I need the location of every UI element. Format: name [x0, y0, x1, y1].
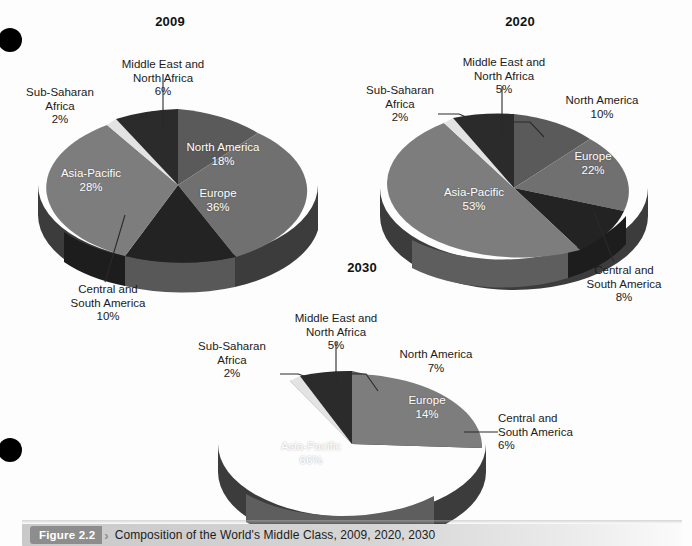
- slice-label-2009-asia-pacific: Asia-Pacific 28%: [46, 167, 136, 194]
- figure-number-badge: Figure 2.2: [30, 526, 102, 544]
- callout-2030-north-america: North America 7%: [376, 348, 496, 375]
- pie-chart-2030: 2030: [176, 256, 596, 520]
- pie-graphic-2030: [176, 256, 596, 520]
- figure-caption-text: Composition of the World's Middle Class,…: [115, 528, 436, 542]
- caption-chevron-icon: ›: [104, 528, 108, 543]
- callout-2009-central-south-america: Central and South America 10%: [38, 283, 178, 324]
- callout-2020-sub-saharan-africa: Sub-Saharan Africa 2%: [346, 84, 454, 125]
- slice-label-2020-europe: Europe 22%: [548, 150, 638, 177]
- slice-label-2020-asia-pacific: Asia-Pacific 53%: [424, 186, 524, 213]
- slice-label-2009-north-america: North America 18%: [168, 141, 278, 168]
- chart-title-2030: 2030: [322, 260, 402, 275]
- callout-2030-sub-saharan-africa: Sub-Saharan Africa 2%: [178, 340, 286, 381]
- figure-page: 2009: [0, 0, 692, 546]
- callout-2030-central-south-america: Central and South America 6%: [498, 412, 618, 453]
- callout-2009-sub-saharan-africa: Sub-Saharan Africa 2%: [6, 86, 114, 127]
- slice-label-2030-asia-pacific: Asia-Pacific 66%: [256, 440, 366, 467]
- callout-2020-north-america: North America 10%: [542, 94, 662, 121]
- figure-caption-bar: Figure 2.2 › Composition of the World's …: [22, 524, 682, 546]
- chart-title-2020: 2020: [480, 14, 560, 29]
- chart-title-2009: 2009: [130, 14, 210, 29]
- slice-label-2030-europe: Europe 14%: [382, 394, 472, 421]
- binding-mark-bottom-icon: [0, 438, 22, 462]
- slice-label-2009-europe: Europe 36%: [178, 187, 258, 214]
